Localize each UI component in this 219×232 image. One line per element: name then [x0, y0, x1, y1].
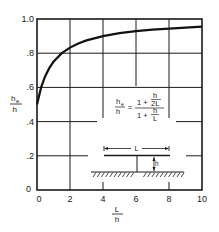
y-tick-label: .2 — [26, 151, 34, 161]
y-tick-label: .6 — [26, 82, 34, 92]
span-label: L — [134, 144, 138, 153]
x-tick-label: 0 — [36, 194, 41, 204]
x-tick-labels: 0246810 — [36, 194, 207, 204]
wing-ground-diagram: L h — [91, 144, 184, 177]
y-tick-labels: 0.2.4.6.81.0 — [21, 14, 34, 194]
x-tick-label: 2 — [67, 194, 72, 204]
hatch-mark — [114, 173, 117, 178]
formula-lhs-subscript: e — [121, 101, 124, 107]
y-tick-label: 0 — [26, 184, 31, 194]
hatch-mark — [181, 173, 184, 178]
chart: 0246810 0.2.4.6.81.0 h e h L h h e h = 1… — [0, 0, 219, 232]
hatch-mark — [160, 173, 163, 178]
formula-equals: = — [128, 103, 133, 112]
hatch-mark — [152, 173, 155, 178]
series-line-he-over-h — [37, 27, 202, 105]
y-label-numerator-subscript: e — [16, 98, 20, 104]
x-label-numerator: L — [115, 205, 120, 214]
hatch-mark — [164, 173, 167, 178]
height-arrowhead-bottom — [153, 167, 156, 171]
formula-annotation: h e h = 1 + h 2L 1 + h L — [115, 91, 164, 123]
span-arrowhead-right — [165, 147, 169, 150]
hatch-mark — [143, 173, 146, 178]
formula-numerator-prefix: 1 + — [137, 98, 148, 107]
x-tick-label: 4 — [100, 194, 105, 204]
ground-hatching — [93, 173, 184, 178]
span-arrowhead-left — [104, 147, 108, 150]
hatch-mark — [169, 173, 172, 178]
hatch-mark — [122, 173, 125, 178]
y-tick-label: 1.0 — [21, 14, 34, 24]
hatch-mark — [110, 173, 113, 178]
x-axis-label: L h — [112, 205, 123, 224]
x-label-denominator: h — [115, 215, 119, 224]
hatch-mark — [101, 173, 104, 178]
hatch-mark — [106, 173, 109, 178]
hatch-mark — [131, 173, 134, 178]
y-label-denominator: h — [13, 105, 17, 114]
height-label: h — [155, 160, 159, 167]
hatch-mark — [93, 173, 96, 178]
x-tick-label: 10 — [197, 194, 207, 204]
y-axis-label: h e h — [10, 94, 22, 114]
hatch-mark — [177, 173, 180, 178]
hatch-mark — [173, 173, 176, 178]
formula-lhs-numerator: h — [116, 97, 120, 106]
y-tick-label: .8 — [26, 48, 34, 58]
hatch-mark — [127, 173, 130, 178]
formula-denominator-frac-den: L — [153, 114, 157, 123]
formula-denominator-prefix: 1 + — [137, 111, 148, 120]
y-tick-label: .4 — [26, 117, 34, 127]
hatch-mark — [156, 173, 159, 178]
hatch-mark — [148, 173, 151, 178]
x-tick-label: 8 — [166, 194, 171, 204]
x-tick-label: 6 — [133, 194, 138, 204]
hatch-mark — [97, 173, 100, 178]
hatch-mark — [118, 173, 121, 178]
y-label-numerator: h — [11, 94, 15, 103]
formula-lhs-denominator: h — [116, 107, 120, 116]
